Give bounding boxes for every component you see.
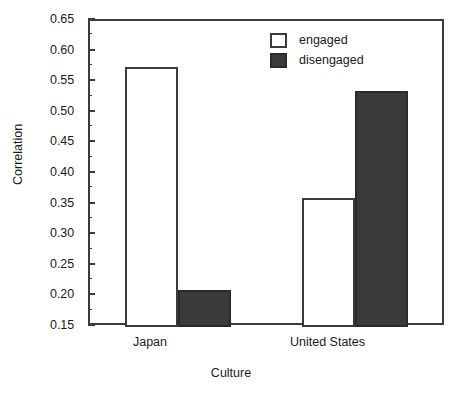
y-tick-label: 0.65 — [50, 12, 74, 26]
bar-japan-disengaged — [178, 290, 231, 327]
y-minor-tick-mark — [88, 64, 92, 65]
y-minor-tick-mark — [88, 217, 92, 218]
y-tick-label: 0.45 — [50, 134, 74, 148]
y-tick-label: 0.15 — [50, 318, 74, 332]
y-axis: 0.650.600.550.500.450.400.350.300.250.20… — [0, 0, 84, 395]
x-tick-label: United States — [290, 335, 365, 349]
legend-swatch-disengaged — [270, 53, 287, 68]
y-tick-mark — [88, 110, 95, 112]
legend-label-engaged: engaged — [299, 33, 348, 47]
chart-legend: engaged disengaged — [270, 30, 364, 70]
y-minor-tick-mark — [88, 186, 92, 187]
y-tick-label: 0.30 — [50, 226, 74, 240]
plot-area — [88, 19, 444, 325]
y-minor-tick-mark — [88, 33, 92, 34]
bar-united-states-engaged — [302, 198, 355, 327]
legend-swatch-engaged — [270, 33, 287, 48]
y-tick-mark — [88, 293, 95, 295]
y-minor-tick-mark — [88, 95, 92, 96]
x-axis-title: Culture — [211, 366, 251, 380]
y-minor-tick-mark — [88, 278, 92, 279]
y-tick-label: 0.35 — [50, 196, 74, 210]
bar-united-states-disengaged — [355, 91, 408, 327]
y-tick-mark — [88, 140, 95, 142]
y-tick-label: 0.40 — [50, 165, 74, 179]
y-tick-label: 0.50 — [50, 104, 74, 118]
y-tick-mark — [88, 171, 95, 173]
y-tick-mark — [88, 263, 95, 265]
y-tick-label: 0.20 — [50, 287, 74, 301]
y-tick-mark — [88, 49, 95, 51]
y-minor-tick-mark — [88, 309, 92, 310]
legend-label-disengaged: disengaged — [299, 53, 364, 67]
y-tick-mark — [88, 232, 95, 234]
bar-chart: 0.650.600.550.500.450.400.350.300.250.20… — [0, 0, 462, 395]
y-tick-mark — [88, 79, 95, 81]
y-minor-tick-mark — [88, 156, 92, 157]
y-tick-mark — [88, 202, 95, 204]
legend-item-engaged: engaged — [270, 30, 364, 50]
bar-japan-engaged — [125, 67, 178, 327]
y-minor-tick-mark — [88, 248, 92, 249]
y-tick-label: 0.55 — [50, 73, 74, 87]
x-tick-label: Japan — [133, 335, 167, 349]
y-axis-title: Correlation — [11, 124, 25, 185]
legend-item-disengaged: disengaged — [270, 50, 364, 70]
y-tick-label: 0.60 — [50, 43, 74, 57]
y-minor-tick-mark — [88, 125, 92, 126]
y-tick-mark — [88, 18, 95, 20]
y-tick-label: 0.25 — [50, 257, 74, 271]
y-tick-mark — [88, 324, 95, 326]
